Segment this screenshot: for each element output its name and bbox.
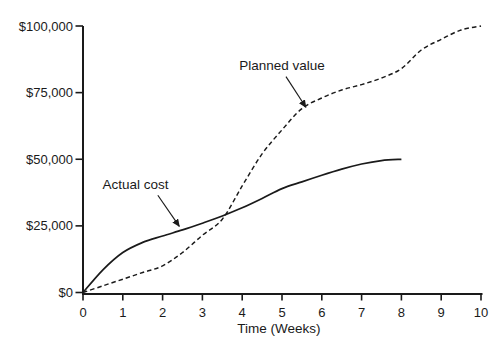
y-tick-label-100000: $100,000 xyxy=(19,19,73,34)
annotation-label-planned-value: Planned value xyxy=(239,58,325,73)
annotations-layer: Planned valueActual cost xyxy=(103,58,325,226)
y-tick-label-0: $0 xyxy=(59,285,73,300)
earned-value-chart: $0$25,000$50,000$75,000$100,000012345678… xyxy=(0,0,501,349)
y-tick-label-75000: $75,000 xyxy=(26,85,73,100)
x-tick-label-3: 3 xyxy=(199,305,206,320)
x-tick-label-7: 7 xyxy=(358,305,365,320)
chart-canvas: $0$25,000$50,000$75,000$100,000012345678… xyxy=(0,0,501,349)
annotation-arrow-actual-cost xyxy=(158,195,179,226)
x-tick-label-2: 2 xyxy=(159,305,166,320)
annotation-label-actual-cost: Actual cost xyxy=(103,177,169,192)
x-tick-label-6: 6 xyxy=(318,305,325,320)
y-tick-label-50000: $50,000 xyxy=(26,152,73,167)
y-tick-label-25000: $25,000 xyxy=(26,218,73,233)
x-tick-label-9: 9 xyxy=(438,305,445,320)
annotation-arrow-planned-value xyxy=(286,77,306,108)
x-tick-label-4: 4 xyxy=(239,305,246,320)
x-tick-label-5: 5 xyxy=(278,305,285,320)
x-tick-label-1: 1 xyxy=(119,305,126,320)
x-axis-title: Time (Weeks) xyxy=(237,321,320,336)
x-tick-label-10: 10 xyxy=(474,305,488,320)
x-tick-label-0: 0 xyxy=(79,305,86,320)
x-tick-label-8: 8 xyxy=(398,305,405,320)
